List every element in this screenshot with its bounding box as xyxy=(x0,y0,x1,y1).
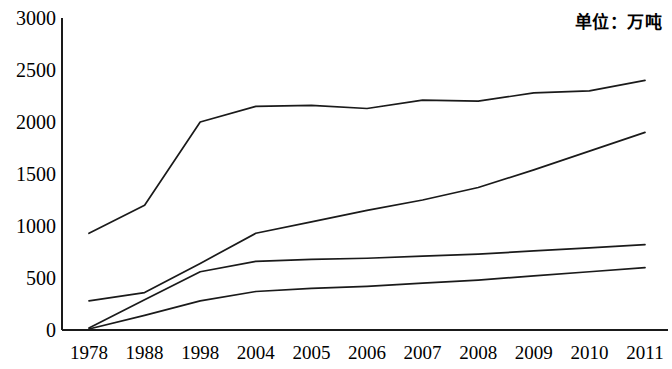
x-axis-tick-labels: 1978198819982004200520062007200820092010… xyxy=(0,0,672,369)
x-tick-label: 1988 xyxy=(126,343,164,362)
x-tick-label: 2010 xyxy=(570,343,608,362)
x-tick-label: 2004 xyxy=(237,343,275,362)
line-chart: 单位：万吨 050010001500200025003000 197819881… xyxy=(0,0,672,369)
x-tick-label: 2006 xyxy=(348,343,386,362)
x-tick-label: 1998 xyxy=(181,343,219,362)
x-tick-label: 2007 xyxy=(404,343,442,362)
x-tick-label: 2009 xyxy=(515,343,553,362)
x-tick-label: 2008 xyxy=(459,343,497,362)
x-tick-label: 2011 xyxy=(626,343,663,362)
x-tick-label: 1978 xyxy=(70,343,108,362)
x-tick-label: 2005 xyxy=(292,343,330,362)
